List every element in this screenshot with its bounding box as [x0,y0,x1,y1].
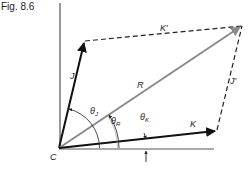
label-r: R [137,80,144,90]
vector-r-arrow [59,27,240,148]
label-theta-r: θR [111,116,121,127]
vector-j-arrow [59,43,84,148]
label-j: J [69,71,75,81]
label-k: K [190,119,197,129]
label-c: C [50,152,57,162]
vector-diagram: C J R K K′ J′ θJ θR θK [0,0,250,178]
label-theta-j: θJ [90,106,99,117]
label-k-prime: K′ [160,23,168,33]
label-j-prime: J′ [229,76,237,86]
label-theta-k: θK [140,112,150,123]
